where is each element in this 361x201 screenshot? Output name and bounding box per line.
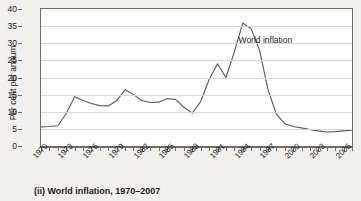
gridline	[41, 112, 352, 113]
gridline	[41, 43, 352, 44]
y-tick-mark	[18, 9, 22, 10]
y-tick-label: 10	[8, 108, 17, 117]
y-tick-mark	[18, 60, 22, 61]
chart-figure: Per cent per annum 0510152025303540 Worl…	[0, 0, 361, 201]
y-tick-label: 0	[12, 142, 17, 151]
y-tick-mark	[18, 43, 22, 44]
y-tick-mark	[18, 129, 22, 130]
gridline	[41, 95, 352, 96]
series-annotation-label: World inflation	[239, 35, 293, 45]
y-tick-mark	[18, 78, 22, 79]
y-tick-label: 30	[8, 39, 17, 48]
figure-caption: (ii) World inflation, 1970–2007	[34, 186, 160, 196]
plot-area	[40, 8, 353, 147]
y-tick-label: 35	[8, 22, 17, 31]
y-tick-label: 5	[12, 125, 17, 134]
y-tick-mark	[18, 112, 22, 113]
gridline	[41, 129, 352, 130]
y-tick-mark	[18, 146, 22, 147]
gridline	[41, 26, 352, 27]
y-tick-label: 15	[8, 90, 17, 99]
y-tick-label: 25	[8, 56, 17, 65]
gridline	[41, 60, 352, 61]
gridline	[41, 78, 352, 79]
y-tick-mark	[18, 95, 22, 96]
y-tick-mark	[18, 26, 22, 27]
y-axis: 0510152025303540	[0, 0, 40, 155]
y-tick-label: 20	[8, 73, 17, 82]
y-tick-label: 40	[8, 5, 17, 14]
